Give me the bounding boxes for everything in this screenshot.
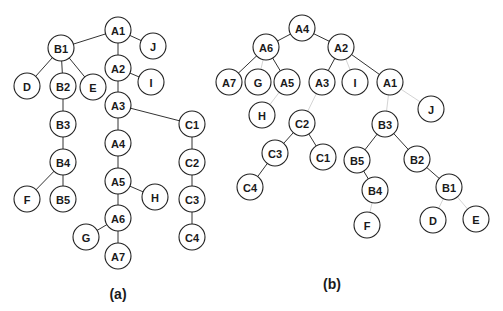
node-label: A3 bbox=[111, 100, 125, 112]
node-c2: C2 bbox=[179, 149, 205, 175]
node-c3: C3 bbox=[179, 186, 205, 212]
node-e: E bbox=[80, 74, 106, 100]
panel-b-nodes: A4A6A2A7GA5A3IA1HJC2B3C3C1B5B2C4B4B1FDE bbox=[216, 15, 489, 238]
node-d: D bbox=[420, 207, 446, 233]
node-label: A6 bbox=[111, 213, 125, 225]
node-i: I bbox=[342, 69, 368, 95]
node-b5: B5 bbox=[344, 147, 370, 173]
panel-b-caption: (b) bbox=[323, 276, 341, 292]
node-label: B3 bbox=[56, 119, 70, 131]
node-label: C1 bbox=[185, 119, 199, 131]
node-a6: A6 bbox=[105, 205, 131, 231]
node-d: D bbox=[14, 73, 40, 99]
node-label: A2 bbox=[334, 42, 348, 54]
node-a1: A1 bbox=[105, 17, 131, 43]
node-c1: C1 bbox=[310, 144, 336, 170]
node-a1: A1 bbox=[377, 69, 403, 95]
node-label: E bbox=[89, 82, 96, 94]
panel-b-tree: A4A6A2A7GA5A3IA1HJC2B3C3C1B5B2C4B4B1FDE bbox=[216, 15, 489, 238]
node-label: C2 bbox=[295, 118, 309, 130]
node-a4: A4 bbox=[105, 130, 131, 156]
tree-diagram-canvas: A1JB1A2IDB2EA3C1B3A4C2B4A5HC3FB5A6C4GA7 … bbox=[0, 0, 503, 311]
node-label: H bbox=[151, 192, 159, 204]
node-label: A1 bbox=[111, 25, 125, 37]
node-j: J bbox=[140, 33, 166, 59]
node-a7: A7 bbox=[105, 243, 131, 269]
node-i: I bbox=[138, 69, 164, 95]
node-c4: C4 bbox=[237, 174, 263, 200]
node-label: A5 bbox=[111, 176, 125, 188]
panel-a-caption: (a) bbox=[109, 286, 126, 302]
node-f: F bbox=[354, 212, 380, 238]
node-label: A7 bbox=[222, 77, 236, 89]
node-b4: B4 bbox=[50, 149, 76, 175]
node-a3: A3 bbox=[309, 69, 335, 95]
node-label: B5 bbox=[350, 155, 364, 167]
node-label: C2 bbox=[185, 157, 199, 169]
panel-a-nodes: A1JB1A2IDB2EA3C1B3A4C2B4A5HC3FB5A6C4GA7 bbox=[14, 17, 205, 269]
node-g: G bbox=[245, 69, 271, 95]
node-a6: A6 bbox=[253, 34, 279, 60]
node-label: E bbox=[472, 214, 479, 226]
node-label: D bbox=[429, 215, 437, 227]
node-c2: C2 bbox=[289, 110, 315, 136]
node-e: E bbox=[463, 206, 489, 232]
node-label: A1 bbox=[383, 77, 397, 89]
node-label: J bbox=[428, 104, 434, 116]
node-g: G bbox=[73, 224, 99, 250]
node-label: C3 bbox=[268, 148, 282, 160]
node-label: A4 bbox=[295, 23, 310, 35]
node-label: A2 bbox=[111, 63, 125, 75]
node-label: B4 bbox=[368, 185, 383, 197]
node-a2: A2 bbox=[328, 34, 354, 60]
node-label: B1 bbox=[442, 182, 456, 194]
node-label: C3 bbox=[185, 194, 199, 206]
node-label: D bbox=[23, 81, 31, 93]
panel-a-tree: A1JB1A2IDB2EA3C1B3A4C2B4A5HC3FB5A6C4GA7 bbox=[14, 17, 205, 269]
node-b3: B3 bbox=[50, 111, 76, 137]
node-c3: C3 bbox=[262, 140, 288, 166]
node-label: H bbox=[258, 110, 266, 122]
node-label: A3 bbox=[315, 77, 329, 89]
node-label: C4 bbox=[243, 182, 258, 194]
node-b1: B1 bbox=[436, 174, 462, 200]
node-label: F bbox=[24, 194, 31, 206]
node-h: H bbox=[249, 102, 275, 128]
node-label: B2 bbox=[410, 154, 424, 166]
node-b1: B1 bbox=[48, 35, 74, 61]
node-a3: A3 bbox=[105, 92, 131, 118]
node-a5: A5 bbox=[105, 168, 131, 194]
node-label: A7 bbox=[111, 251, 125, 263]
node-label: C4 bbox=[185, 232, 200, 244]
node-label: I bbox=[353, 77, 356, 89]
node-a2: A2 bbox=[105, 55, 131, 81]
node-label: A5 bbox=[280, 77, 294, 89]
node-label: A6 bbox=[259, 42, 273, 54]
node-label: B4 bbox=[56, 157, 71, 169]
node-label: C1 bbox=[316, 152, 330, 164]
node-c4: C4 bbox=[179, 224, 205, 250]
node-label: B2 bbox=[56, 81, 70, 93]
node-b3: B3 bbox=[372, 111, 398, 137]
node-label: F bbox=[364, 220, 371, 232]
node-b4: B4 bbox=[362, 177, 388, 203]
node-h: H bbox=[142, 184, 168, 210]
node-label: A4 bbox=[111, 138, 126, 150]
node-a4: A4 bbox=[289, 15, 315, 41]
node-b2: B2 bbox=[50, 73, 76, 99]
node-label: B3 bbox=[378, 119, 392, 131]
node-b5: B5 bbox=[50, 186, 76, 212]
node-f: F bbox=[14, 186, 40, 212]
node-a7: A7 bbox=[216, 69, 242, 95]
node-label: J bbox=[150, 41, 156, 53]
node-c1: C1 bbox=[179, 111, 205, 137]
node-j: J bbox=[418, 96, 444, 122]
node-a5: A5 bbox=[274, 69, 300, 95]
node-label: B1 bbox=[54, 43, 68, 55]
node-label: I bbox=[149, 77, 152, 89]
node-label: B5 bbox=[56, 194, 70, 206]
node-b2: B2 bbox=[404, 146, 430, 172]
node-label: G bbox=[254, 77, 263, 89]
node-label: G bbox=[82, 232, 91, 244]
